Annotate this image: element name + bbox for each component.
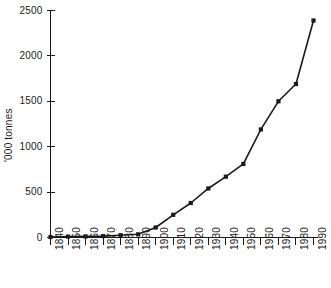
data-point-markers xyxy=(48,18,315,239)
data-point-marker xyxy=(259,127,263,131)
data-point-marker xyxy=(241,162,245,166)
line-chart: '000 tonnes 05001000150020002500 1840185… xyxy=(0,0,331,288)
data-point-marker xyxy=(224,175,228,179)
data-point-marker xyxy=(154,225,158,229)
data-point-marker xyxy=(83,234,87,238)
x-axis-ticks xyxy=(51,238,314,245)
data-series-line xyxy=(51,20,314,237)
data-point-marker xyxy=(276,99,280,103)
data-point-marker xyxy=(48,235,52,239)
axis-lines xyxy=(51,11,318,238)
data-point-marker xyxy=(206,186,210,190)
data-point-marker xyxy=(136,232,140,236)
data-point-marker xyxy=(171,213,175,217)
data-point-marker xyxy=(101,234,105,238)
data-point-marker xyxy=(189,201,193,205)
plot-area xyxy=(0,0,331,288)
data-point-marker xyxy=(119,233,123,237)
data-point-marker xyxy=(294,82,298,86)
data-point-marker xyxy=(66,234,70,238)
data-point-marker xyxy=(311,18,315,22)
